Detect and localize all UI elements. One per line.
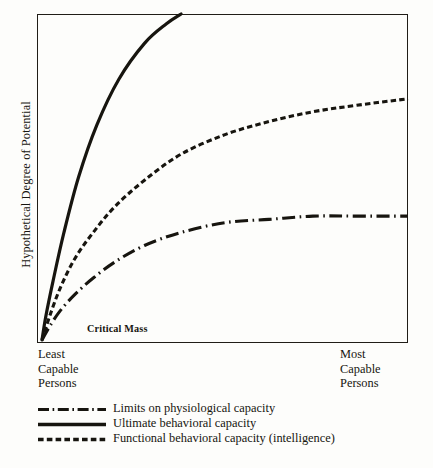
x-axis-start-label-line-2: Capable xyxy=(38,362,79,377)
x-axis-end-label-line-2: Capable xyxy=(340,362,381,377)
x-axis-end-label-line-1: Most xyxy=(340,347,381,362)
legend-label: Ultimate behavioral capacity xyxy=(113,416,256,431)
series-line-ultimate-behavioral-capacity xyxy=(42,14,181,340)
x-axis-start-label: Least Capable Persons xyxy=(38,347,79,391)
legend-swatch-dashed-icon xyxy=(38,432,106,447)
figure-container: Hypothetical Degree of Potential Critica… xyxy=(0,0,433,468)
legend-swatch-dash-dot-icon xyxy=(38,402,106,417)
x-axis-end-label-line-3: Persons xyxy=(340,376,381,391)
chart-legend: Limits on physiological capacity Ultimat… xyxy=(38,402,428,447)
critical-mass-annotation: Critical Mass xyxy=(87,323,148,334)
x-axis-start-label-line-1: Least xyxy=(38,347,79,362)
legend-swatch-solid-icon xyxy=(38,417,106,432)
x-axis-end-label: Most Capable Persons xyxy=(340,347,381,391)
legend-item-limits-on-physiological-capacity: Limits on physiological capacity xyxy=(38,402,428,417)
legend-item-ultimate-behavioral-capacity: Ultimate behavioral capacity xyxy=(38,417,428,432)
legend-item-functional-behavioral-capacity: Functional behavioral capacity (intellig… xyxy=(38,432,428,447)
legend-label: Limits on physiological capacity xyxy=(113,401,275,416)
series-group xyxy=(42,14,408,340)
x-axis-start-label-line-3: Persons xyxy=(38,376,79,391)
series-line-limits-on-physiological-capacity xyxy=(42,216,408,340)
legend-label: Functional behavioral capacity (intellig… xyxy=(113,431,335,446)
plot-curves xyxy=(37,14,408,343)
series-line-functional-behavioral-capacity xyxy=(42,99,408,340)
y-axis-title: Hypothetical Degree of Potential xyxy=(19,85,34,285)
